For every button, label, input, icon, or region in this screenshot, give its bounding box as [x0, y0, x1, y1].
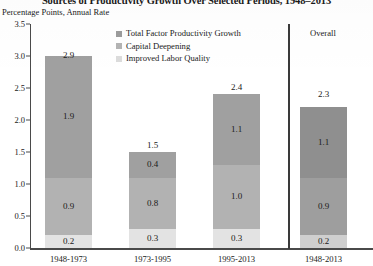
bar-group[interactable]: 0.20.91.12.31948-2013 [300, 101, 347, 248]
y-axis-line [30, 24, 31, 249]
y-tick-label: 3.5 [0, 19, 25, 29]
bar-segment-value: 0.2 [63, 237, 74, 246]
bar-segment-value: 1.1 [231, 125, 242, 134]
chart-title: Sources of Productivity Growth Over Sele… [0, 0, 373, 6]
x-axis-line [30, 248, 373, 250]
legend-label-capital: Capital Deepening [126, 41, 190, 52]
legend-swatch-tfp [116, 31, 122, 37]
productivity-growth-chart: Sources of Productivity Growth Over Sele… [0, 0, 373, 266]
bar-segment[interactable]: 1.1 [300, 107, 347, 177]
bar-segment-value: 0.8 [147, 199, 158, 208]
legend-item-capital: Capital Deepening [116, 41, 241, 52]
bar-segment[interactable]: 0.2 [300, 235, 347, 248]
bar-segment-value: 0.2 [318, 237, 329, 246]
y-tick-mark [26, 120, 30, 121]
bar-segment[interactable]: 0.3 [213, 229, 260, 248]
bar-segment[interactable]: 1.0 [213, 165, 260, 229]
y-tick-label: 2.5 [0, 83, 25, 93]
legend-item-tfp: Total Factor Productivity Growth [116, 28, 241, 39]
x-axis-category-label: 1973-1995 [105, 254, 200, 264]
x-axis-category-label: 1995-2013 [189, 254, 284, 264]
y-tick-mark [26, 184, 30, 185]
bar-segment[interactable]: 0.4 [129, 152, 176, 178]
bar-segment-value: 0.3 [231, 234, 242, 243]
y-tick-mark [26, 216, 30, 217]
bar-segment-value: 0.3 [147, 234, 158, 243]
y-tick-mark [26, 56, 30, 57]
bar-segment[interactable]: 1.1 [213, 94, 260, 164]
legend-item-labor: Improved Labor Quality [116, 53, 241, 64]
bar-total-value: 2.3 [300, 89, 347, 99]
y-tick-label: 2.0 [0, 115, 25, 125]
x-axis-category-label: 1948-1973 [21, 254, 116, 264]
bar-segment[interactable]: 0.8 [129, 178, 176, 229]
bar-segment-value: 0.4 [147, 160, 158, 169]
bar-total-value: 2.4 [213, 82, 260, 92]
x-axis-category-label: 1948-2013 [276, 254, 371, 264]
bar-segment-value: 0.9 [318, 202, 329, 211]
overall-panel-divider [288, 24, 290, 249]
bar-segment-value: 0.9 [63, 202, 74, 211]
bar-segment[interactable]: 0.9 [300, 178, 347, 236]
bar-segment[interactable]: 0.9 [45, 178, 92, 236]
bar-segment[interactable]: 0.2 [45, 235, 92, 248]
chart-subtitle: Percentage Points, Annual Rate [2, 7, 109, 17]
bar-total-value: 2.9 [45, 50, 92, 60]
bar-group[interactable]: 0.31.01.12.41995-2013 [213, 94, 260, 248]
y-tick-mark [26, 24, 30, 25]
bar-group[interactable]: 0.30.80.41.51973-1995 [129, 152, 176, 248]
bar-total-value: 1.5 [129, 140, 176, 150]
y-tick-label: 0.5 [0, 211, 25, 221]
y-tick-label: 1.0 [0, 179, 25, 189]
y-tick-label: 3.0 [0, 51, 25, 61]
bar-segment[interactable]: 0.3 [129, 229, 176, 248]
y-tick-mark [26, 88, 30, 89]
bar-group[interactable]: 0.20.91.92.91948-1973 [45, 62, 92, 248]
y-tick-mark [26, 152, 30, 153]
y-tick-label: 1.5 [0, 147, 25, 157]
bar-segment-value: 1.0 [231, 192, 242, 201]
y-tick-mark [26, 248, 30, 249]
bar-segment[interactable]: 1.9 [45, 56, 92, 178]
overall-panel-label: Overall [310, 28, 336, 38]
legend-label-tfp: Total Factor Productivity Growth [126, 28, 241, 39]
y-tick-label: 0.0 [0, 243, 25, 253]
legend-label-labor: Improved Labor Quality [126, 53, 210, 64]
legend-swatch-capital [116, 43, 122, 49]
chart-legend: Total Factor Productivity Growth Capital… [116, 28, 241, 66]
legend-swatch-labor [116, 56, 122, 62]
bar-segment-value: 1.1 [318, 138, 329, 147]
bar-segment-value: 1.9 [63, 112, 74, 121]
